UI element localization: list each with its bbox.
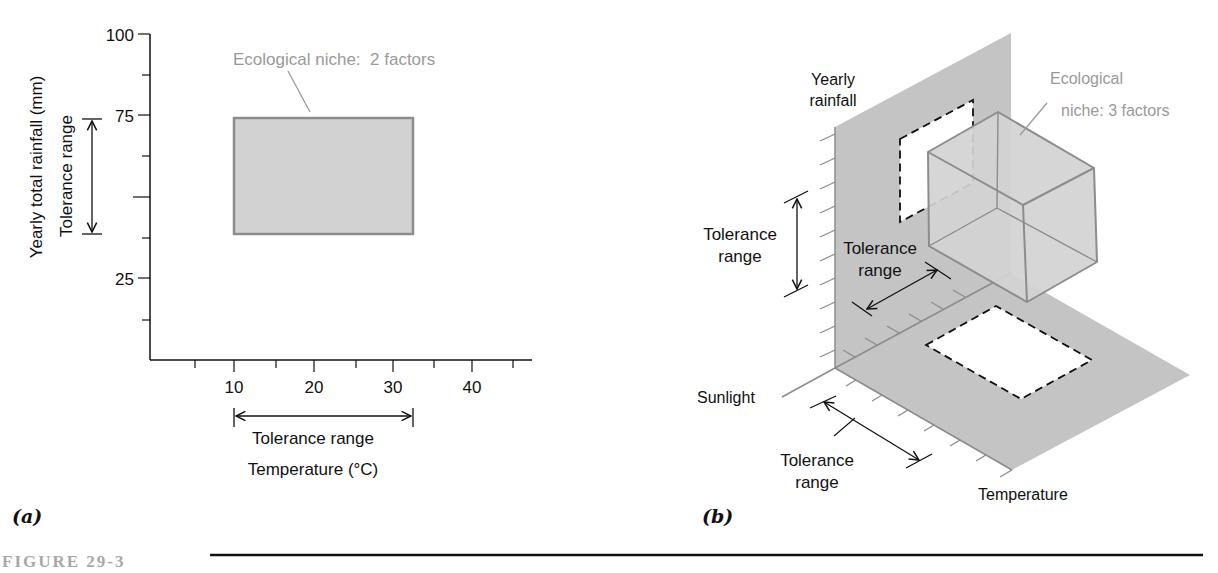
y-tick-100: 100 (106, 26, 134, 45)
rainfall-ticks (820, 134, 835, 357)
niche-3-label-line2: niche: 3 factors (1061, 102, 1170, 119)
y-axis-label: Yearly total rainfall (mm) (27, 76, 46, 259)
panel-b-diagram: Yearly rainfall Ecological niche: 3 fact… (697, 33, 1190, 503)
sunlight-label: Sunlight (697, 389, 755, 406)
x-tolerance-arrow (234, 408, 413, 427)
niche-3-leader-line (1020, 103, 1047, 135)
left-tolerance-line2: range (718, 247, 761, 266)
sunlight-axis (782, 368, 835, 397)
rainfall-label-line2: rainfall (809, 92, 856, 109)
panel-a-chart: 100 75 25 10 20 30 40 Ecological niche: … (27, 26, 532, 479)
x-tick-20: 20 (305, 378, 324, 397)
x-tick-30: 30 (384, 378, 403, 397)
mid-tolerance-line1: Tolerance (843, 239, 917, 258)
x-tick-40: 40 (463, 378, 482, 397)
x-tolerance-label: Tolerance range (252, 429, 374, 448)
x-axis-label: Temperature (°C) (248, 460, 379, 479)
rainfall-label-line1: Yearly (811, 71, 855, 88)
niche-3-label-line1: Ecological (1050, 70, 1123, 87)
panel-b-caption: (b) (702, 505, 733, 527)
figure-label: FIGURE 29-3 (2, 552, 126, 571)
figure-canvas: 100 75 25 10 20 30 40 Ecological niche: … (0, 0, 1218, 573)
panel-a-caption: (a) (12, 505, 42, 527)
niche-label-2-factors: Ecological niche: 2 factors (233, 50, 435, 69)
y-ticks (133, 34, 150, 320)
bottom-tolerance-line2: range (795, 473, 838, 492)
temperature-label: Temperature (978, 486, 1068, 503)
y-tolerance-arrow (82, 119, 102, 234)
y-tick-75: 75 (115, 107, 134, 126)
bottom-tolerance-line1: Tolerance (780, 451, 854, 470)
y-tolerance-label: Tolerance range (57, 115, 76, 237)
bottom-tolerance-leader (834, 418, 855, 436)
niche-rectangle-2-factors (234, 118, 413, 234)
left-tolerance-line1: Tolerance (703, 225, 777, 244)
mid-tolerance-line2: range (858, 261, 901, 280)
niche-leader-line (288, 71, 310, 112)
x-tick-10: 10 (225, 378, 244, 397)
rainfall-tolerance-arrow (784, 191, 808, 297)
y-tick-25: 25 (115, 270, 134, 289)
x-ticks (195, 360, 513, 372)
